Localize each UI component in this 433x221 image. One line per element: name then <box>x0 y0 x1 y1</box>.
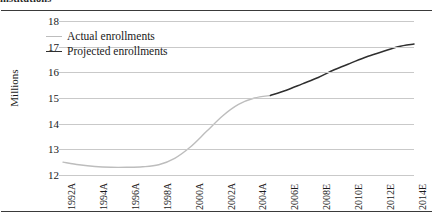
x-axis-tick-labels: 1992A1994A1996A1998A2000A2002A2004A2006E… <box>63 176 414 212</box>
legend: Actual enrollments Projected enrollments <box>46 29 168 59</box>
x-tick-label-2006E: 2006E <box>290 184 300 210</box>
y-tick-label-18: 18 <box>48 16 59 27</box>
top-rule <box>1 10 432 11</box>
y-tick-stub-18 <box>59 21 63 22</box>
x-tick-label-1992A: 1992A <box>67 183 77 210</box>
x-tick-label-1994A: 1994A <box>99 183 109 210</box>
legend-label-actual: Actual enrollments <box>67 31 155 43</box>
y-tick-stub-15 <box>59 98 63 99</box>
y-tick-label-16: 16 <box>48 67 59 78</box>
x-tick-label-1998A: 1998A <box>163 183 173 210</box>
y-tick-label-15: 15 <box>48 93 59 104</box>
legend-swatch-projected-icon <box>46 51 62 52</box>
x-tick-label-2000A: 2000A <box>195 183 205 210</box>
legend-label-projected: Projected enrollments <box>67 46 168 58</box>
x-tick-label-2014E: 2014E <box>418 184 428 210</box>
y-tick-stub-14 <box>59 124 63 125</box>
bottom-rule <box>1 211 432 212</box>
gridline-18 <box>63 21 414 22</box>
series-line-projected <box>270 44 414 95</box>
gridline-15 <box>63 98 414 99</box>
gridline-14 <box>63 124 414 125</box>
y-tick-stub-13 <box>59 149 63 150</box>
x-tick-label-2002A: 2002A <box>227 183 237 210</box>
caption-cutoff-clip: institutions <box>0 0 433 9</box>
gridline-13 <box>63 149 414 150</box>
y-tick-label-13: 13 <box>48 144 59 155</box>
legend-swatch-actual-icon <box>46 36 62 37</box>
x-tick-label-2008E: 2008E <box>322 184 332 210</box>
x-tick-label-2010E: 2010E <box>354 184 364 210</box>
gridline-16 <box>63 72 414 73</box>
series-line-actual <box>63 95 270 167</box>
y-tick-stub-16 <box>59 72 63 73</box>
y-tick-label-14: 14 <box>48 118 59 129</box>
legend-item-actual: Actual enrollments <box>46 29 168 44</box>
x-tick-label-1996A: 1996A <box>131 183 141 210</box>
enrollment-line-chart-figure: institutions Millions 18171615141312 199… <box>0 0 433 221</box>
y-tick-label-12: 12 <box>48 170 59 181</box>
legend-item-projected: Projected enrollments <box>46 44 168 59</box>
y-axis-label: Millions <box>8 58 20 118</box>
x-tick-label-2004A: 2004A <box>258 183 268 210</box>
caption-cutoff-text: institutions <box>0 0 51 4</box>
x-tick-label-2012E: 2012E <box>386 184 396 210</box>
